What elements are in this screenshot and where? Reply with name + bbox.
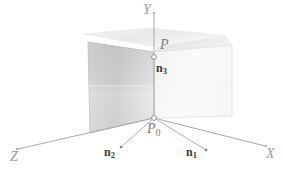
- y-axis-label: Y: [143, 3, 151, 17]
- point-p0-label: P0: [147, 122, 161, 138]
- normal-n1-letter: n: [186, 145, 193, 159]
- plane-front-vertical-shade: [88, 42, 154, 133]
- normal-n2-dot: [120, 146, 123, 149]
- normal-n3-subscript: 3: [163, 66, 167, 76]
- geometry-figure: Y X Z P P0 n3 n2 n1: [0, 0, 283, 177]
- point-p-letter: P: [160, 37, 169, 52]
- normal-n1-segment: [154, 118, 206, 150]
- y-axis-tip-dot: [153, 12, 155, 14]
- z-axis-label: Z: [10, 150, 18, 164]
- point-p0-subscript: 0: [156, 127, 161, 138]
- z-axis-line: [18, 118, 154, 149]
- x-axis-label: X: [266, 147, 275, 161]
- normal-n3-letter: n: [156, 61, 163, 75]
- normal-n2-subscript: 2: [111, 150, 115, 160]
- normal-n1-label: n1: [186, 146, 197, 160]
- plane-right-vertical: [154, 45, 232, 118]
- normal-n3-label: n3: [156, 62, 167, 76]
- point-p0-marker: [152, 116, 157, 121]
- normal-n1-dot: [205, 149, 208, 152]
- x-axis-line: [154, 118, 265, 146]
- point-p-label: P: [160, 38, 169, 52]
- point-p-marker: [152, 55, 157, 60]
- normal-n1-subscript: 1: [193, 150, 197, 160]
- point-p0-letter: P: [147, 121, 156, 136]
- normal-n2-letter: n: [104, 145, 111, 159]
- figure-canvas: [0, 0, 283, 177]
- normal-n2-label: n2: [104, 146, 115, 160]
